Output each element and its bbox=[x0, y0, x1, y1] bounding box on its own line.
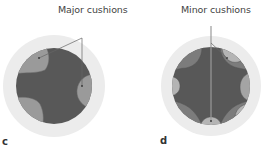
panel-d-callout-dot-2 bbox=[210, 120, 212, 122]
panel-c-figure bbox=[3, 35, 105, 137]
panel-d-figure bbox=[161, 26, 261, 136]
panel-d-callout-label: Minor cushions bbox=[181, 4, 251, 15]
panel-d-letter: d bbox=[160, 135, 167, 146]
panel-c-letter: c bbox=[2, 136, 8, 147]
diagram-canvas bbox=[0, 0, 261, 151]
panel-c-callout-dot-2 bbox=[81, 85, 83, 87]
panel-c-callout-dot-1 bbox=[38, 57, 40, 59]
panel-c-callout-label: Major cushions bbox=[58, 4, 128, 15]
panel-d-callout-dot-1 bbox=[226, 57, 228, 59]
